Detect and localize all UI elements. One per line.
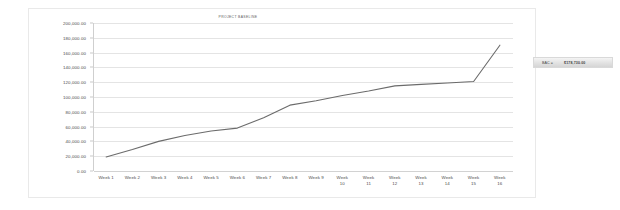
x-axis-tick-label: Week 6: [230, 175, 245, 181]
y-axis: 200,000.00180,000.00160,000.00140,000.00…: [29, 23, 89, 171]
y-axis-tick-label: 120,000.00: [63, 80, 86, 85]
x-axis-tick-label: Week 12: [389, 175, 401, 187]
bac-value: $178,730.00: [564, 61, 585, 65]
x-axis-tick-label: Week 3: [151, 175, 166, 181]
y-axis-tick-label: 160,000.00: [63, 50, 86, 55]
series-line-chart: [93, 23, 513, 171]
x-axis-tick-label: Week 14: [442, 175, 454, 187]
bac-label: BAC =: [542, 61, 553, 65]
chart-container: PROJECT BASELINE 200,000.00180,000.00160…: [28, 8, 536, 198]
x-axis-tick-label: Week 11: [363, 175, 375, 187]
x-axis-tick-label: Week 15: [468, 175, 480, 187]
y-axis-tick-label: 80,000.00: [66, 109, 86, 114]
y-axis-tick-label: 180,000.00: [63, 35, 86, 40]
y-axis-tick-label: 200,000.00: [63, 21, 86, 26]
y-axis-tick-label: 140,000.00: [63, 65, 86, 70]
x-axis-tick-label: Week 13: [415, 175, 427, 187]
y-axis-tick-label: 20,000.00: [66, 154, 86, 159]
x-axis-tick-label: Week 8: [282, 175, 297, 181]
x-axis-tick-label: Week 2: [125, 175, 140, 181]
plot-area: [93, 23, 513, 171]
y-axis-tick-label: 40,000.00: [66, 139, 86, 144]
x-axis-tick-label: Week 9: [308, 175, 323, 181]
x-axis: Week 1Week 2Week 3Week 4Week 5Week 6Week…: [93, 175, 513, 201]
x-axis-tick-label: Week 4: [177, 175, 192, 181]
series-line: [106, 45, 500, 157]
chart-title: PROJECT BASELINE: [0, 15, 491, 19]
y-axis-tick-label: 100,000.00: [63, 95, 86, 100]
chart-screenshot: PROJECT BASELINE 200,000.00180,000.00160…: [0, 0, 620, 210]
bac-callout[interactable]: BAC = $178,730.00: [533, 57, 613, 68]
x-axis-tick-label: Week 1: [98, 175, 113, 181]
y-axis-tick-label: 0.00: [77, 169, 86, 174]
x-axis-tick-label: Week 10: [337, 175, 349, 187]
x-axis-tick-label: Week 7: [256, 175, 271, 181]
x-axis-tick-label: Week 5: [203, 175, 218, 181]
gridline: [94, 171, 513, 172]
y-axis-tick-label: 60,000.00: [66, 124, 86, 129]
x-axis-tick-label: Week 16: [494, 175, 506, 187]
